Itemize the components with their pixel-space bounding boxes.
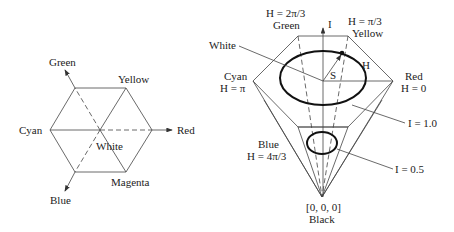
label-white: White — [96, 140, 123, 152]
label-blue-hue: H = 4π/3 — [247, 150, 287, 162]
label-axis-i: I — [328, 18, 332, 30]
cone-edge-green-dashed — [298, 36, 322, 197]
label-red-right: Red — [405, 70, 423, 82]
label-white-right: White — [209, 39, 236, 51]
label-i-one: I = 1.0 — [408, 117, 438, 129]
label-red-hue: H = 0 — [401, 82, 427, 94]
label-red: Red — [177, 124, 195, 136]
hsi-color-model-diagram: Green Yellow Cyan Red White Magenta Blue — [0, 0, 454, 232]
yellow-spoke — [100, 88, 126, 130]
label-black: Black — [309, 213, 335, 225]
green-axis-arrow — [65, 70, 75, 88]
intensity-half-ellipse — [307, 132, 337, 154]
label-blue-right: Blue — [258, 138, 279, 150]
label-cyan: Cyan — [19, 124, 43, 136]
green-axis-dashed — [75, 88, 100, 130]
color-point — [340, 51, 345, 56]
cone-edge-yellow-dashed — [322, 36, 348, 197]
label-yellow-hue: H = π/3 — [348, 15, 382, 27]
label-blue: Blue — [50, 194, 71, 206]
color-hexagon — [50, 70, 172, 191]
cone-edge-lower-right — [322, 100, 382, 197]
label-saturation: S — [330, 69, 336, 81]
blue-axis-arrow — [65, 172, 75, 191]
label-yellow-top: Yellow — [352, 27, 383, 39]
label-green: Green — [49, 56, 76, 68]
label-hue: H — [362, 59, 370, 71]
label-yellow: Yellow — [118, 73, 149, 85]
label-cyan-right: Cyan — [224, 70, 248, 82]
label-magenta: Magenta — [111, 176, 150, 188]
label-cyan-hue: H = π — [220, 82, 246, 94]
i-one-leader — [352, 105, 405, 123]
label-green-top: Green — [273, 19, 300, 31]
label-green-hue: H = 2π/3 — [266, 7, 306, 19]
label-origin: [0, 0, 0] — [306, 201, 341, 213]
label-i-half: I = 0.5 — [395, 163, 425, 175]
hsi-hexcone — [239, 28, 405, 197]
